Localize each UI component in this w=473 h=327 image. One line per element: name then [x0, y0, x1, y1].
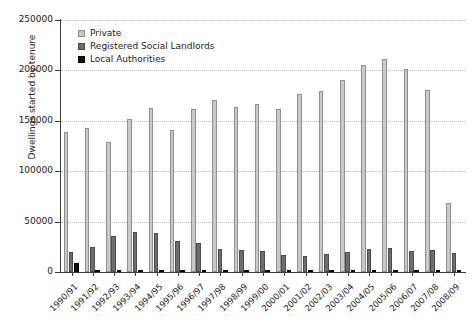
bar — [117, 270, 122, 272]
legend-item-private: Private — [78, 28, 214, 40]
x-axis-tick — [199, 272, 200, 276]
bar — [234, 107, 239, 272]
y-axis-tick — [55, 171, 61, 172]
x-axis-tick — [242, 272, 243, 276]
legend-label-local-authorities: Local Authorities — [90, 55, 165, 64]
legend-swatch-private-icon — [78, 30, 85, 37]
y-axis-tick-label: 50000 — [1, 217, 53, 226]
bar-group — [422, 20, 443, 272]
x-axis-tick — [72, 272, 73, 276]
bar — [329, 270, 334, 272]
y-axis-tick — [55, 20, 61, 21]
y-axis-tick — [55, 70, 61, 71]
y-axis-tick-label: 0 — [1, 267, 53, 276]
y-axis-tick — [55, 272, 61, 273]
bar — [361, 65, 366, 272]
y-axis-tick-label: 100000 — [1, 166, 53, 175]
x-axis-tick — [391, 272, 392, 276]
y-axis-tick-label: 200000 — [1, 65, 53, 74]
bar — [74, 263, 79, 272]
bar — [436, 270, 441, 272]
x-axis-tick — [348, 272, 349, 276]
bar-group — [274, 20, 295, 272]
bar — [90, 247, 95, 272]
x-axis-tick — [284, 272, 285, 276]
bar-group — [252, 20, 273, 272]
x-axis-tick — [263, 272, 264, 276]
bar — [345, 252, 350, 272]
bar-group — [401, 20, 422, 272]
bar-chart: Dwellings started by tenure 050000100000… — [0, 0, 473, 327]
bar — [85, 128, 90, 272]
bar-group — [444, 20, 465, 272]
bar — [196, 243, 201, 272]
bar — [276, 109, 281, 272]
x-axis-tick — [327, 272, 328, 276]
bar — [446, 203, 451, 272]
bar — [430, 250, 435, 272]
bar — [212, 100, 217, 272]
bar — [367, 249, 372, 272]
bar — [191, 109, 196, 272]
bar — [69, 252, 74, 272]
bar — [223, 270, 228, 272]
legend-swatch-local-authorities-icon — [78, 56, 85, 63]
bar-group — [295, 20, 316, 272]
legend-label-private: Private — [90, 29, 121, 38]
legend: Private Registered Social Landlords Loca… — [78, 28, 214, 67]
bar-group — [380, 20, 401, 272]
bar — [281, 255, 286, 272]
bar — [202, 270, 207, 272]
bar — [388, 248, 393, 272]
bar — [372, 270, 377, 272]
bar — [425, 90, 430, 272]
y-axis-tick — [55, 121, 61, 122]
bar — [324, 254, 329, 272]
bar — [239, 250, 244, 272]
bar — [111, 236, 116, 272]
x-axis-tick — [114, 272, 115, 276]
bar — [414, 270, 419, 272]
bar-group — [337, 20, 358, 272]
bar — [409, 251, 414, 272]
x-axis-tick — [93, 272, 94, 276]
bar — [265, 270, 270, 272]
bar — [218, 249, 223, 272]
bar — [154, 233, 159, 272]
x-axis-tick — [454, 272, 455, 276]
bar — [149, 108, 154, 272]
bar — [260, 251, 265, 272]
x-axis-tick — [306, 272, 307, 276]
bar — [319, 91, 324, 272]
bar — [180, 270, 185, 272]
legend-item-registered-social-landlords: Registered Social Landlords — [78, 41, 214, 53]
bar — [351, 270, 356, 272]
legend-label-registered-social-landlords: Registered Social Landlords — [90, 42, 214, 51]
bar — [64, 132, 69, 272]
bar-group — [316, 20, 337, 272]
bar — [393, 270, 398, 272]
bar — [106, 142, 111, 272]
x-axis-tick — [412, 272, 413, 276]
x-axis-tick — [135, 272, 136, 276]
bar — [303, 256, 308, 272]
bar — [244, 270, 249, 272]
x-axis-tick — [178, 272, 179, 276]
x-axis-tick — [157, 272, 158, 276]
legend-swatch-registered-social-landlords-icon — [78, 43, 85, 50]
bar — [308, 270, 313, 272]
bar — [159, 270, 164, 272]
bar — [340, 80, 345, 272]
bar — [255, 104, 260, 272]
bar — [452, 253, 457, 272]
bar — [170, 130, 175, 272]
bar — [175, 241, 180, 272]
bar — [382, 59, 387, 272]
bar — [127, 119, 132, 272]
bar — [138, 270, 143, 272]
legend-item-local-authorities: Local Authorities — [78, 54, 214, 66]
bar-group — [231, 20, 252, 272]
bar — [297, 94, 302, 272]
y-axis-tick — [55, 222, 61, 223]
y-axis-tick-labels: 050000100000150000200000250000 — [0, 0, 53, 252]
